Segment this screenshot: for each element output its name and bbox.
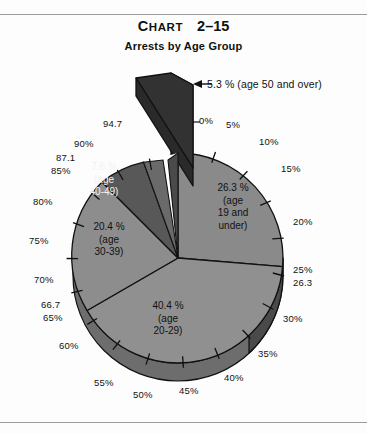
tick-label-10: 10%: [259, 136, 279, 147]
tick-label-35: 35%: [258, 348, 278, 359]
tick-label-25: 25%: [293, 264, 313, 275]
slice-label-line: 26.3 %: [196, 182, 270, 195]
tick-label-75: 75%: [29, 235, 49, 246]
slice-label-line: 20.4 %: [72, 221, 146, 234]
tick-label-50: 50%: [133, 389, 153, 400]
slice-label-19-and-under: 26.3 % (age 19 and under): [196, 182, 270, 232]
tick-label-55: 55%: [94, 377, 114, 388]
tick-label-15: 15%: [281, 163, 301, 174]
tick-label-5: 5%: [226, 119, 240, 130]
tick-label-87-1: 87.1: [56, 152, 75, 163]
slice-label-line: (age: [74, 174, 134, 187]
tick-label-90: 90%: [74, 138, 94, 149]
slice-label-line: 40.4 %: [131, 300, 205, 313]
tick-label-60: 60%: [59, 340, 79, 351]
slice-label-line: 7.6 %: [74, 161, 134, 174]
slice-label-30-39: 20.4 % (age 30-39): [72, 221, 146, 259]
tick-label-0: 0%: [199, 115, 213, 126]
tick-label-94-7: 94.7: [103, 118, 122, 129]
tick-label-26-3: 26.3: [293, 277, 312, 288]
slice-label-line: 30-39): [72, 246, 146, 259]
slice-label-40-49: 7.6 % (age 40-49): [74, 161, 134, 199]
slice-label-line: under): [196, 220, 270, 233]
tick-label-85: 85%: [51, 165, 71, 176]
tick-label-80: 80%: [33, 196, 53, 207]
slice-label-line: 20-29): [131, 325, 205, 338]
slice-label-line: (age: [131, 313, 205, 326]
tick-label-70: 70%: [34, 274, 54, 285]
slice-label-line: 19 and: [196, 207, 270, 220]
tick-label-66-7: 66.7: [41, 299, 60, 310]
slice-label-line: (age: [72, 234, 146, 247]
slice-label-20-29: 40.4 % (age 20-29): [131, 300, 205, 338]
tick-label-30: 30%: [283, 313, 303, 324]
slice-label-line: (age: [196, 195, 270, 208]
tick-label-65: 65%: [43, 312, 63, 323]
callout-label-50-and-over: 5.3 % (age 50 and over): [207, 78, 322, 90]
tick-label-40: 40%: [224, 372, 244, 383]
tick-label-45: 45%: [179, 385, 199, 396]
tick-label-20: 20%: [293, 216, 313, 227]
slice-label-line: 40-49): [74, 186, 134, 199]
chart-page: CHART2–15 Arrests by Age Group: [0, 0, 367, 434]
